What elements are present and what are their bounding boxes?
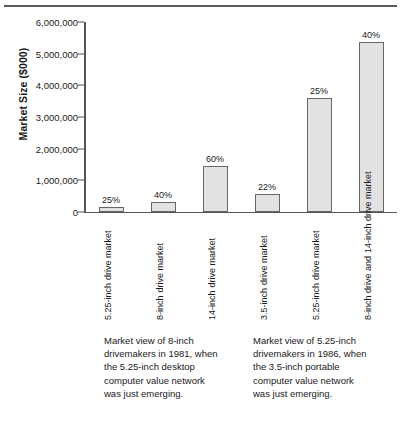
top-divider-rule xyxy=(4,5,397,7)
y-axis-tick-labels: 6,000,0005,000,0004,000,0003,000,0002,00… xyxy=(16,14,78,214)
bar[interactable] xyxy=(203,166,228,212)
y-axis-tick-label: 3,000,000 xyxy=(16,112,78,123)
x-axis-category-line: drive market xyxy=(155,243,166,293)
x-axis-category-label: 8-inchdrive market xyxy=(137,216,189,320)
x-axis-category-label: 5.25-inchdrive market xyxy=(293,216,345,320)
bar-slot: 40% xyxy=(137,22,189,212)
x-axis-category-label: 5.25-inchdrive market xyxy=(85,216,137,320)
y-axis-tick-label: 0 xyxy=(16,207,78,218)
bar-slot: 22% xyxy=(241,22,293,212)
bar[interactable] xyxy=(151,202,176,212)
y-axis-tick-label: 5,000,000 xyxy=(16,48,78,59)
bar-slot: 25% xyxy=(293,22,345,212)
x-axis-category-labels: 5.25-inchdrive market8-inchdrive market1… xyxy=(85,216,397,324)
x-axis-category-line: drive market xyxy=(207,238,218,288)
bar-value-label: 22% xyxy=(258,182,276,192)
bar-value-label: 40% xyxy=(362,30,380,40)
x-axis-category-line: 14-inch xyxy=(207,290,218,320)
bar[interactable] xyxy=(255,194,280,212)
x-axis-category-line: 8-inch drive and xyxy=(363,256,374,320)
x-axis-category-line: 14-inch drive market xyxy=(363,171,374,253)
x-axis-category-line: 5.25-inch xyxy=(103,283,114,320)
x-axis-category-label: 8-inch drive and14-inch drive market xyxy=(345,216,397,320)
x-axis-category-line: 8-inch xyxy=(155,295,166,320)
y-axis-tick-label: 2,000,000 xyxy=(16,143,78,154)
caption-right: Market view of 5.25-inch drivemakers in … xyxy=(253,334,401,400)
plot-bars: 25%40%60%22%25%40% xyxy=(85,22,397,212)
y-axis-tick-label: 1,000,000 xyxy=(16,175,78,186)
y-axis-tick-label: 4,000,000 xyxy=(16,80,78,91)
bar-chart: Market Size ($000) 6,000,0005,000,0004,0… xyxy=(0,14,401,214)
x-axis-category-line: drive market xyxy=(259,235,270,285)
caption-group: Market view of 8-inch drivemakers in 198… xyxy=(0,334,401,426)
bar-value-label: 25% xyxy=(310,86,328,96)
bar[interactable] xyxy=(99,207,124,212)
bar-value-label: 40% xyxy=(154,190,172,200)
x-axis-category-line: drive market xyxy=(311,230,322,280)
bar-slot: 25% xyxy=(85,22,137,212)
x-axis-category-line: 3.5-inch xyxy=(259,288,270,320)
bar-slot: 60% xyxy=(189,22,241,212)
x-axis-category-line: 5.25-inch xyxy=(311,283,322,320)
bar[interactable] xyxy=(307,98,332,212)
bar-value-label: 25% xyxy=(102,195,120,205)
bar-value-label: 60% xyxy=(206,154,224,164)
x-axis-category-label: 3.5-inchdrive market xyxy=(241,216,293,320)
y-axis-tick-label: 6,000,000 xyxy=(16,17,78,28)
x-axis-category-label: 14-inchdrive market xyxy=(189,216,241,320)
x-axis-category-line: drive market xyxy=(103,230,114,280)
caption-left: Market view of 8-inch drivemakers in 198… xyxy=(104,334,244,400)
